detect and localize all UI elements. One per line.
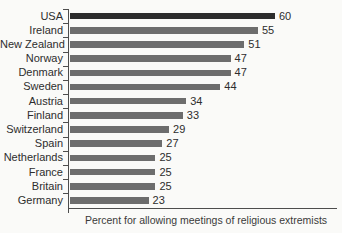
bar-chart-figure: USA60Ireland55New Zealand51Norway47Denma… <box>0 0 342 233</box>
x-axis-label: Percent for allowing meetings of religio… <box>72 214 340 226</box>
y-axis-tick <box>63 23 68 24</box>
bar <box>70 126 169 133</box>
category-label: Austria <box>0 96 63 107</box>
bar <box>70 70 231 77</box>
value-label: 25 <box>159 152 171 163</box>
value-label: 60 <box>279 11 291 22</box>
value-label: 47 <box>235 53 247 64</box>
y-axis-line <box>68 9 69 213</box>
bar <box>70 84 220 91</box>
bar <box>70 183 155 190</box>
bar <box>70 197 149 204</box>
value-label: 23 <box>153 195 165 206</box>
category-label: Sweden <box>0 81 63 92</box>
bar <box>70 41 244 48</box>
y-axis-tick <box>63 122 68 123</box>
y-axis-tick <box>63 165 68 166</box>
plot-area: USA60Ireland55New Zealand51Norway47Denma… <box>0 0 342 233</box>
category-label: Spain <box>0 138 63 149</box>
category-label: Denmark <box>0 67 63 78</box>
category-label: Switzerland <box>0 124 63 135</box>
value-label: 47 <box>235 67 247 78</box>
value-label: 34 <box>190 96 202 107</box>
category-label: Netherlands <box>0 152 63 163</box>
category-label: Germany <box>0 195 63 206</box>
category-label: Norway <box>0 53 63 64</box>
y-axis-tick <box>63 179 68 180</box>
y-axis-tick <box>63 9 68 10</box>
bar <box>70 140 162 147</box>
y-axis-tick <box>63 108 68 109</box>
bar <box>70 13 275 20</box>
bar <box>70 112 183 119</box>
value-label: 44 <box>224 81 236 92</box>
category-label: USA <box>0 11 63 22</box>
bar <box>70 55 231 62</box>
bar <box>70 98 186 105</box>
x-axis-line <box>68 208 337 209</box>
category-label: Ireland <box>0 25 63 36</box>
value-label: 29 <box>173 124 185 135</box>
bar <box>70 27 258 34</box>
y-axis-tick <box>63 66 68 67</box>
y-axis-tick <box>63 193 68 194</box>
y-axis-tick <box>63 137 68 138</box>
y-axis-tick <box>63 151 68 152</box>
bar <box>70 155 155 162</box>
category-label: France <box>0 167 63 178</box>
value-label: 25 <box>159 167 171 178</box>
category-label: Britain <box>0 181 63 192</box>
value-label: 25 <box>159 181 171 192</box>
value-label: 33 <box>187 110 199 121</box>
category-label: Finland <box>0 110 63 121</box>
category-label: New Zealand <box>0 39 63 50</box>
value-label: 51 <box>248 39 260 50</box>
value-label: 55 <box>262 25 274 36</box>
y-axis-tick <box>63 94 68 95</box>
y-axis-tick <box>63 52 68 53</box>
y-axis-tick <box>63 80 68 81</box>
bar <box>70 169 155 176</box>
value-label: 27 <box>166 138 178 149</box>
